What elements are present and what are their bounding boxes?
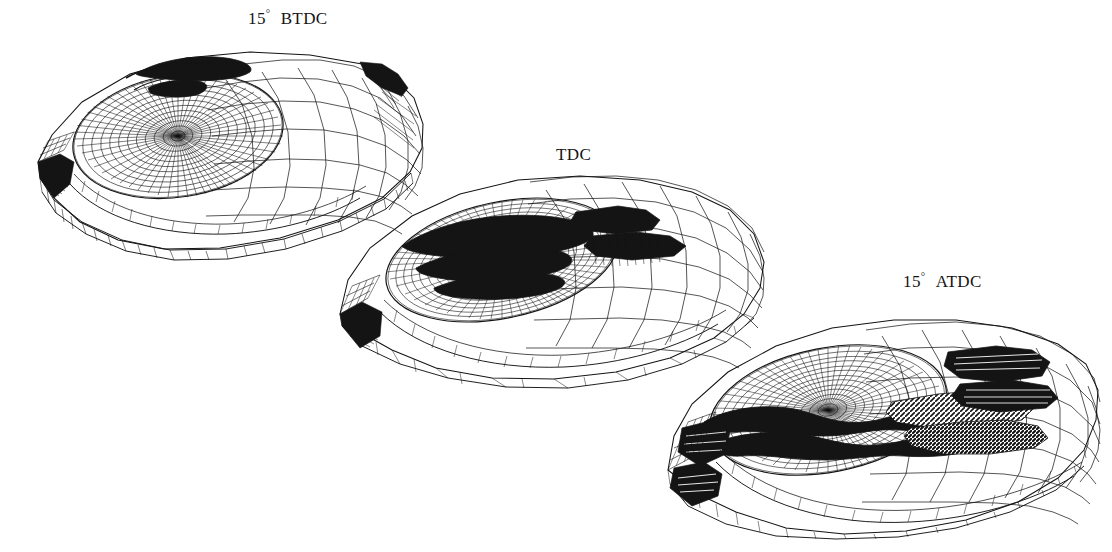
label-btdc-degree: ° xyxy=(266,7,271,19)
label-atdc-phase: ATDC xyxy=(936,272,982,291)
label-btdc-phase: BTDC xyxy=(281,9,328,28)
label-btdc: 15°BTDC xyxy=(248,7,328,29)
label-atdc: 15°ATDC xyxy=(903,270,982,292)
label-tdc: TDC xyxy=(551,143,591,165)
label-tdc-phase: TDC xyxy=(556,145,591,164)
figure-root: 15°BTDC xyxy=(0,0,1112,552)
label-btdc-angle: 15 xyxy=(248,9,266,28)
mesh-view-atdc xyxy=(660,302,1102,540)
label-atdc-degree: ° xyxy=(921,270,926,282)
label-atdc-angle: 15 xyxy=(903,272,921,291)
